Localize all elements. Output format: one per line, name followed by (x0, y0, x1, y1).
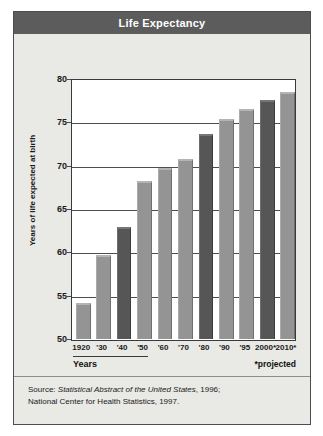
x-tick-label: 2010* (276, 343, 296, 352)
y-tick-label: 60 (41, 247, 67, 257)
source-prefix: Source: (28, 385, 58, 394)
chart-figure: Life Expectancy Years of life expected a… (13, 11, 311, 425)
y-axis-label: Years of life expected at birth (28, 106, 37, 276)
y-axis-ticks: 50556065707580 (39, 79, 67, 341)
bar-slot (114, 81, 134, 339)
source-line-1: Source: Statistical Abstract of the Unit… (28, 384, 300, 396)
x-axis-label: Years (73, 359, 97, 369)
x-tick-label: '50 (132, 343, 152, 352)
bar-90 (219, 119, 234, 339)
bar-50 (137, 181, 152, 339)
x-tick-label: '80 (194, 343, 214, 352)
bar-slot (134, 81, 154, 339)
bar-70 (178, 159, 193, 339)
bar-slot (73, 81, 93, 339)
bar-95 (239, 109, 254, 339)
bar-slot (278, 81, 298, 339)
x-axis-ticks: 1920'30'40'50'60'70'80'90'952000*2010* (71, 343, 296, 357)
bar-slot (257, 81, 277, 339)
chart-plot-region: Years of life expected at birth 50556065… (14, 34, 310, 374)
chart-title-bar: Life Expectancy (14, 12, 310, 34)
bar-slot (93, 81, 113, 339)
bar-slot (216, 81, 236, 339)
bar-slot (175, 81, 195, 339)
plot-box (71, 79, 296, 341)
bar-40 (117, 227, 132, 339)
y-tick-label: 70 (41, 161, 67, 171)
x-axis-underline (73, 356, 148, 357)
projected-footnote: *projected (254, 359, 296, 369)
bar-2000 (260, 100, 275, 339)
source-year: , 1996; (196, 385, 220, 394)
y-tick-label: 75 (41, 117, 67, 127)
source-divider (14, 376, 310, 377)
x-tick-label: '30 (91, 343, 111, 352)
x-tick-label: '95 (235, 343, 255, 352)
bar-series (73, 81, 294, 339)
y-tick-label: 55 (41, 291, 67, 301)
bar-2010 (280, 92, 295, 339)
bar-60 (158, 168, 173, 339)
x-tick-label: '60 (153, 343, 173, 352)
source-line-2: National Center for Health Statistics, 1… (28, 396, 300, 408)
page-title: Life Expectancy (119, 17, 206, 29)
bar-80 (199, 134, 214, 339)
bar-slot (196, 81, 216, 339)
y-tick-label: 65 (41, 204, 67, 214)
bar-30 (96, 255, 111, 339)
x-tick-label: 1920 (71, 343, 91, 352)
source-note: Source: Statistical Abstract of the Unit… (28, 384, 300, 407)
y-tick-label: 80 (41, 74, 67, 84)
bar-slot (237, 81, 257, 339)
source-publication: Statistical Abstract of the United State… (58, 385, 196, 394)
y-tick-label: 50 (41, 334, 67, 344)
x-tick-label: '40 (112, 343, 132, 352)
x-tick-label: '70 (173, 343, 193, 352)
bar-1920 (76, 303, 91, 339)
x-tick-label: 2000* (255, 343, 275, 352)
bar-slot (155, 81, 175, 339)
x-tick-label: '90 (214, 343, 234, 352)
